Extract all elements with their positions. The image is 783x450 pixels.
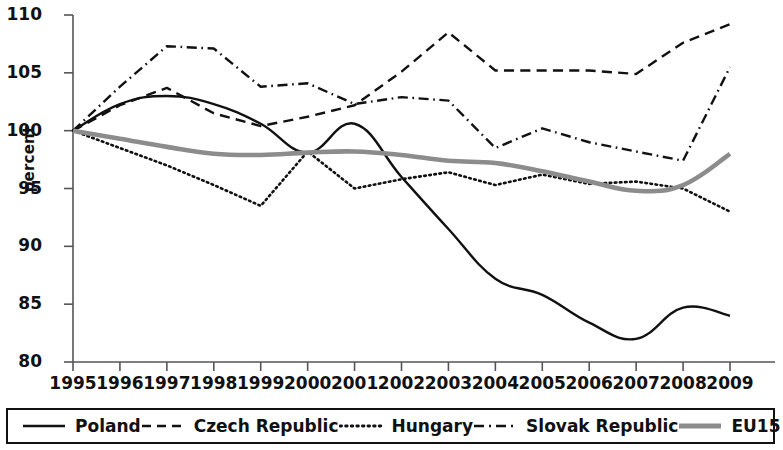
series-line-poland [73,96,730,339]
legend-swatch-dotted [339,420,383,432]
legend-item[interactable]: EU15 [678,416,780,436]
legend-item[interactable]: Slovak Republic [473,416,678,436]
legend-item-label: Slovak Republic [526,416,678,436]
legend-item-label: EU15 [731,416,780,436]
series-line-slovak-republic [73,46,730,161]
legend-item-label: Czech Republic [194,416,339,436]
line-chart-plot [0,0,783,400]
series-line-hungary [73,131,730,212]
legend-item[interactable]: Poland [22,416,141,436]
legend-swatch-solid-thick [678,420,722,432]
chart-legend: PolandCzech RepublicHungarySlovak Republ… [6,408,775,444]
legend-swatch-dashed [141,420,185,432]
series-line-czech-republic [73,24,730,130]
legend-item[interactable]: Czech Republic [141,416,339,436]
legend-swatch-dashdot [473,420,517,432]
legend-item-label: Hungary [392,416,474,436]
legend-swatch-solid [22,420,66,432]
chart-container: percent 80859095100105110 19951996199719… [0,0,783,450]
legend-item-label: Poland [75,416,141,436]
legend-item[interactable]: Hungary [339,416,474,436]
